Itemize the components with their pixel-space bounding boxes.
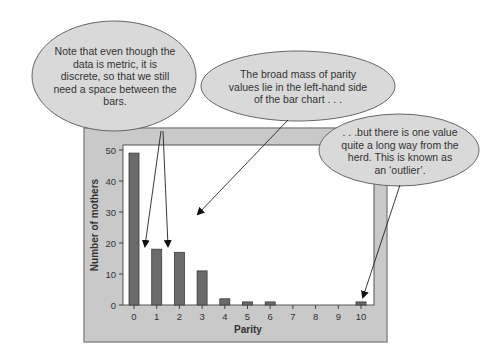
callout-text-outlier: . . .but there is one value quite a long… [341, 126, 459, 176]
y-tick-label: 10 [105, 269, 116, 280]
y-tick-label: 0 [111, 300, 116, 311]
x-tick-label: 10 [356, 311, 367, 322]
bar-parity-5 [243, 302, 253, 305]
bar-parity-0 [129, 153, 139, 305]
x-tick-label: 5 [245, 311, 250, 322]
x-tick-label: 7 [290, 311, 295, 322]
callout-text-mass: The broad mass of parity values lie in t… [228, 68, 368, 106]
bar-parity-3 [197, 271, 207, 305]
bar-parity-10 [356, 302, 366, 305]
x-tick-label: 9 [336, 311, 341, 322]
bar-parity-2 [174, 252, 184, 305]
y-tick-label: 40 [105, 176, 116, 187]
callout-text-discrete: Note that even though the data is metric… [52, 45, 178, 108]
x-tick-label: 3 [199, 311, 204, 322]
bar-parity-4 [220, 299, 230, 305]
bar-parity-1 [152, 249, 162, 305]
y-axis-title: Number of mothers [89, 178, 100, 271]
x-tick-label: 6 [268, 311, 273, 322]
bar-parity-6 [265, 302, 275, 305]
y-tick-label: 50 [105, 145, 116, 156]
x-tick-label: 0 [131, 311, 136, 322]
x-tick-label: 1 [154, 311, 159, 322]
x-tick-label: 8 [313, 311, 318, 322]
y-tick-label: 20 [105, 238, 116, 249]
x-axis-title: Parity [234, 324, 262, 335]
y-tick-label: 30 [105, 207, 116, 218]
x-tick-label: 2 [177, 311, 182, 322]
x-tick-label: 4 [222, 311, 227, 322]
